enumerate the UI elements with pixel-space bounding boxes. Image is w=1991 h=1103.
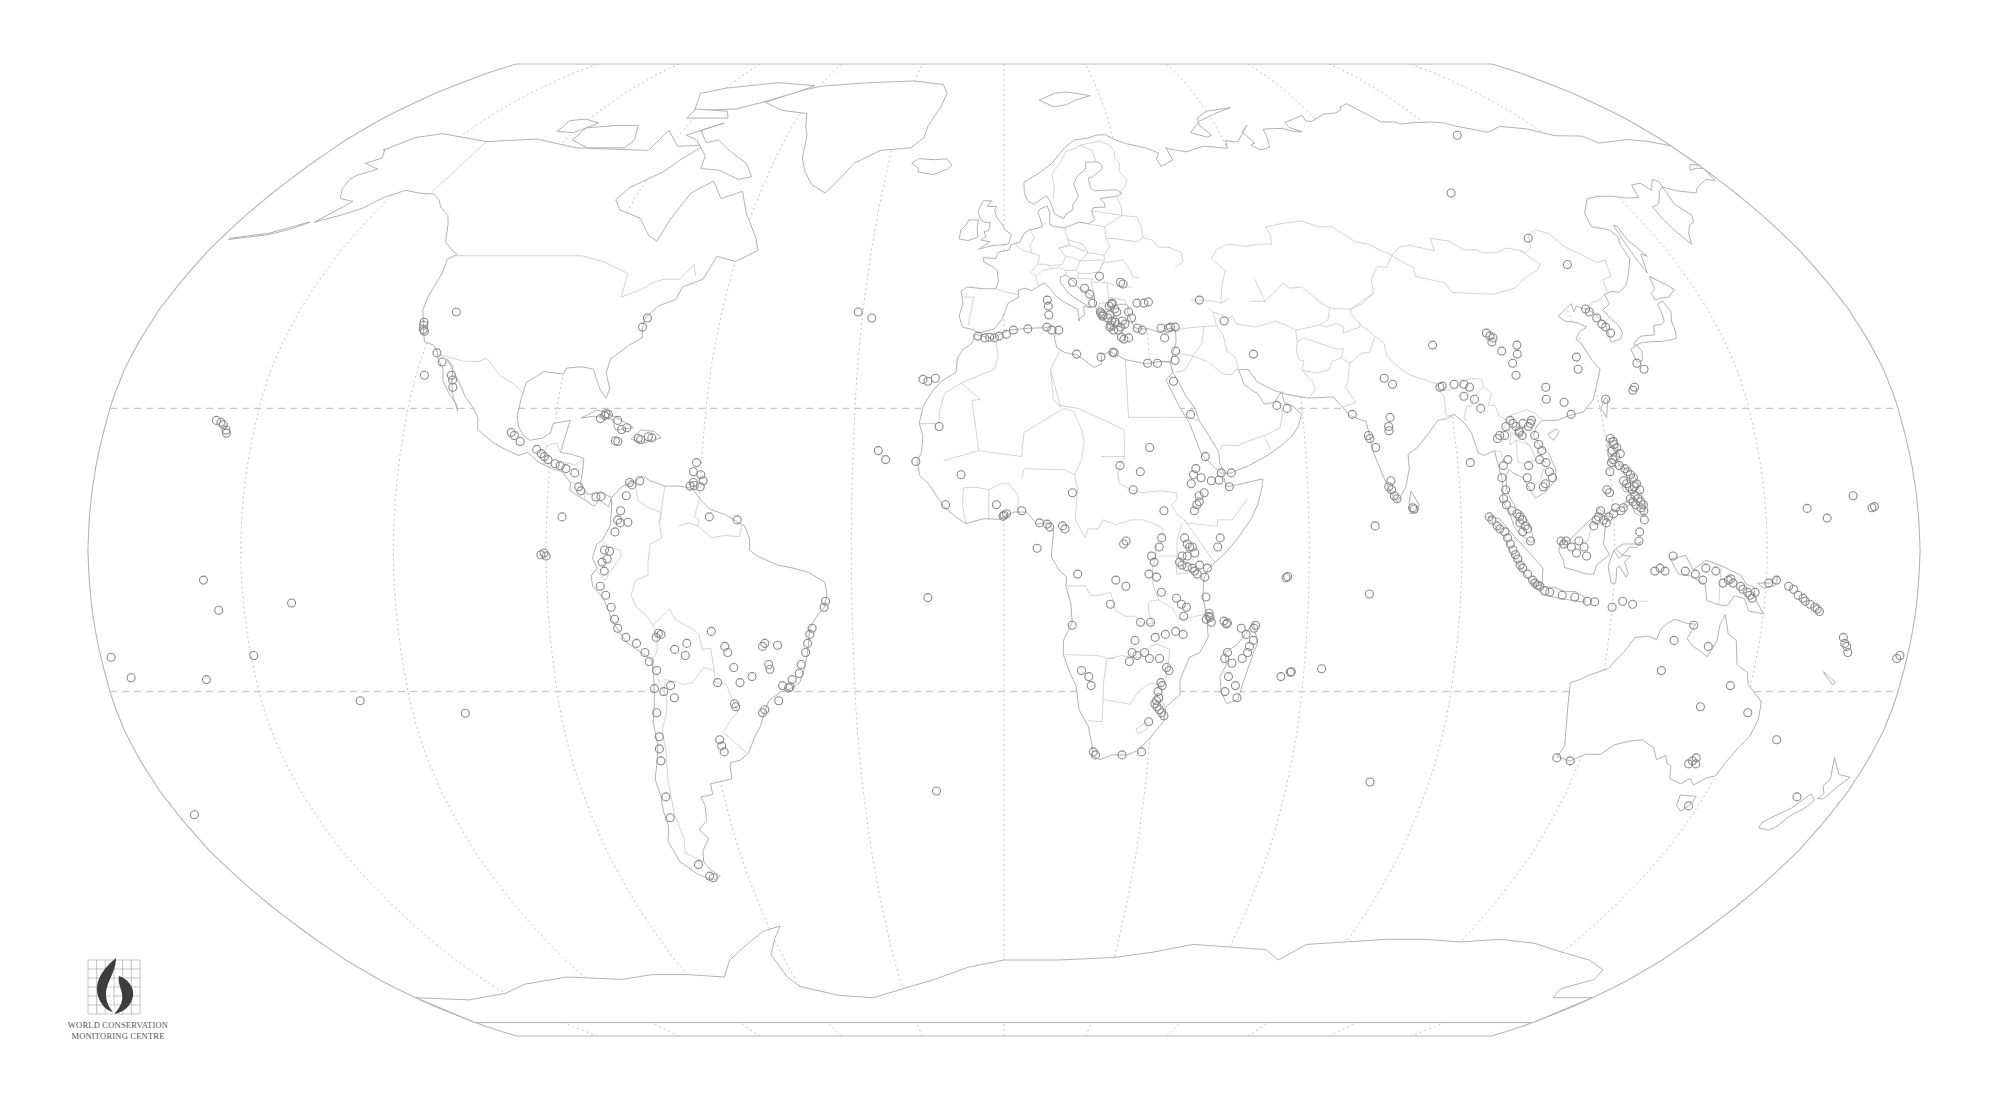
wcmc-globe-flame-icon <box>86 958 142 1016</box>
logo-line-1: WORLD CONSERVATION <box>58 1020 178 1031</box>
wcmc-logo-text: WORLD CONSERVATION MONITORING CENTRE <box>58 1020 178 1042</box>
world-map <box>0 0 1991 1103</box>
logo-line-2: MONITORING CENTRE <box>58 1031 178 1042</box>
